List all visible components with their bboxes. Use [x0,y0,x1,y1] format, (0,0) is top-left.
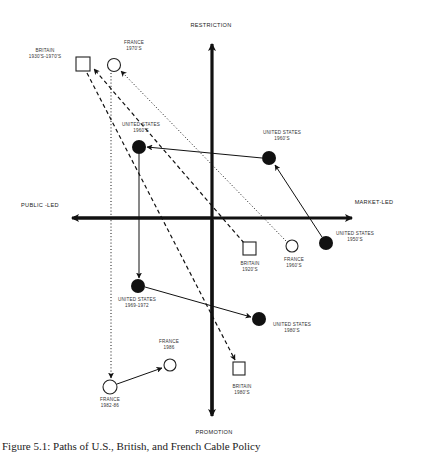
label-france-1986: FRANCE 1986 [159,339,179,350]
label-country: UNITED STATES [336,231,374,237]
label-country: FRANCE [124,40,144,46]
label-period: 1960'S [122,128,160,134]
label-period: 1950'S [336,237,374,243]
us-paths [139,147,322,317]
path-france-1960s-to-1970s [121,71,286,241]
axis-label-top: RESTRICTION [190,22,231,29]
label-period: 1960'S [263,136,301,142]
label-britain-1980s: BRITAIN 1980'S [232,384,251,395]
label-country: BRITAIN [232,384,251,390]
node-us-1950s [319,236,333,250]
label-france-1960s: FRANCE 1960'S [284,257,304,268]
label-country: UNITED STATES [118,297,156,303]
node-france-1970s [108,59,121,72]
node-us-1980s [252,312,266,326]
label-britain-1930s-1970s: BRITAIN 1930'S-1970'S [29,48,61,59]
label-country: UNITED STATES [122,122,160,128]
axis-label-right: MARKET-LED [355,199,394,206]
node-france-1982-86 [103,380,117,394]
label-period: 1980'S [232,390,251,396]
label-country: UNITED STATES [273,322,311,328]
france-paths [111,71,286,384]
nodes [76,57,333,394]
label-period: 1969-1972 [118,303,156,309]
node-us-1960s-left [132,140,146,154]
label-period: 1986 [159,345,179,351]
label-period: 1982-86 [100,403,120,409]
node-france-1986 [164,359,176,371]
label-country: FRANCE [100,397,120,403]
label-us-1969-1972: UNITED STATES 1969-1972 [118,297,156,308]
node-us-1969-1972 [131,279,145,293]
label-country: FRANCE [159,339,179,345]
axes [72,44,352,416]
label-period: 1920'S [240,267,259,273]
path-us-1969-to-1980s [145,287,251,317]
label-us-1980s: UNITED STATES 1980'S [273,322,311,333]
axis-label-bottom: PROMOTION [195,429,232,436]
figure-caption: Figure 5.1: Paths of U.S., British, and … [2,440,260,452]
label-us-1960s-left: UNITED STATES 1960'S [122,122,160,133]
path-us-1950s-to-1960s [275,165,322,237]
label-period: 1980'S [273,328,311,334]
label-country: BRITAIN [240,261,259,267]
label-france-1970s: FRANCE 1970'S [124,40,144,51]
label-us-1950s: UNITED STATES 1950'S [336,231,374,242]
node-us-1960s-right [262,151,276,165]
label-france-1982-86: FRANCE 1982-86 [100,397,120,408]
label-us-1960s-right: UNITED STATES 1960'S [263,130,301,141]
node-britain-1980s [233,362,245,375]
node-britain-1920s [243,242,256,255]
node-france-1960s [286,240,298,252]
label-country: FRANCE [284,257,304,263]
label-period: 1970'S [124,46,144,52]
label-period: 1930'S-1970'S [29,54,61,60]
axis-label-left: PUBLIC -LED [21,202,59,209]
path-us-1960s-right-to-left [147,147,262,158]
label-period: 1960'S [284,263,304,269]
path-france-1982-to-1986 [117,368,162,384]
label-britain-1920s: BRITAIN 1920'S [240,261,259,272]
label-country: UNITED STATES [263,130,301,136]
node-britain-1930s-1970s [76,57,90,71]
